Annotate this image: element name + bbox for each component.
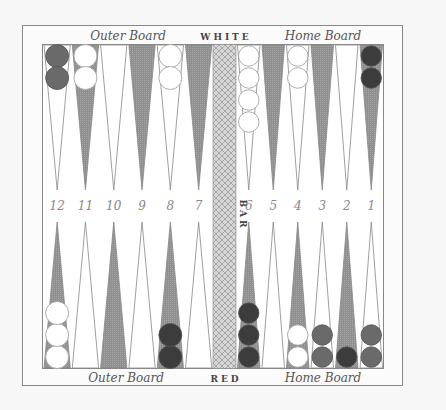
white-checker[interactable] bbox=[46, 324, 69, 347]
point-number-8: 8 bbox=[167, 199, 175, 213]
point-number-7: 7 bbox=[195, 199, 203, 213]
point-number-9: 9 bbox=[138, 199, 146, 213]
red-checker[interactable] bbox=[159, 324, 182, 347]
point-number-3: 3 bbox=[318, 199, 326, 213]
red-checker[interactable] bbox=[361, 68, 382, 89]
point-number-6: 6 bbox=[245, 199, 253, 213]
top-outer-board-label: Outer Board bbox=[90, 29, 166, 43]
red-checker[interactable] bbox=[361, 46, 382, 67]
red-checker[interactable] bbox=[239, 347, 260, 368]
white-checker[interactable] bbox=[239, 46, 260, 67]
white-checker[interactable] bbox=[159, 67, 182, 90]
point-number-11: 11 bbox=[78, 199, 93, 213]
white-checker[interactable] bbox=[239, 68, 260, 89]
point-number-1: 1 bbox=[367, 199, 375, 213]
white-checker[interactable] bbox=[288, 347, 309, 368]
red-checker[interactable] bbox=[46, 67, 69, 90]
point-number-12: 12 bbox=[50, 199, 65, 213]
white-checker[interactable] bbox=[288, 68, 309, 89]
white-checker[interactable] bbox=[288, 325, 309, 346]
red-checker[interactable] bbox=[312, 325, 333, 346]
point-number-2: 2 bbox=[342, 199, 351, 213]
red-checker[interactable] bbox=[361, 325, 382, 346]
backgammon-board: BAR Outer Board WHITE Home Board Outer B… bbox=[0, 0, 446, 410]
white-checker[interactable] bbox=[74, 45, 97, 68]
white-checker[interactable] bbox=[239, 112, 260, 133]
red-side-label: RED bbox=[210, 374, 241, 384]
red-checker[interactable] bbox=[361, 347, 382, 368]
white-checker[interactable] bbox=[239, 90, 260, 111]
white-checker[interactable] bbox=[74, 67, 97, 90]
bar[interactable] bbox=[213, 45, 236, 369]
white-checker[interactable] bbox=[46, 346, 69, 369]
point-number-4: 4 bbox=[293, 199, 302, 213]
white-checker[interactable] bbox=[288, 46, 309, 67]
point-number-5: 5 bbox=[269, 199, 277, 213]
point-number-10: 10 bbox=[106, 199, 122, 213]
red-checker[interactable] bbox=[239, 303, 260, 324]
red-checker[interactable] bbox=[239, 325, 260, 346]
white-checker[interactable] bbox=[159, 45, 182, 68]
red-checker[interactable] bbox=[312, 347, 333, 368]
bottom-outer-board-label: Outer Board bbox=[88, 371, 164, 385]
red-checker[interactable] bbox=[46, 45, 69, 68]
red-checker[interactable] bbox=[337, 347, 358, 368]
white-checker[interactable] bbox=[46, 302, 69, 325]
top-home-board-label: Home Board bbox=[284, 29, 362, 43]
red-checker[interactable] bbox=[159, 346, 182, 369]
bottom-home-board-label: Home Board bbox=[284, 371, 362, 385]
white-side-label: WHITE bbox=[199, 32, 251, 42]
